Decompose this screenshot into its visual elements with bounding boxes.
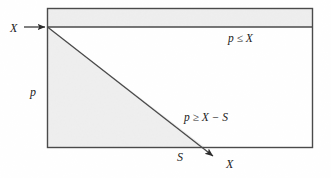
diagram-svg	[0, 0, 331, 178]
shaded-region-p-le-x	[48, 9, 313, 28]
figure-container: X p ≤ X p p ≥ X − S S X	[0, 0, 331, 178]
label-vertical-axis-p: p	[30, 86, 36, 98]
label-diagonal-x: X	[226, 158, 233, 170]
label-x-left: X	[10, 22, 17, 34]
label-bottom-s: S	[177, 151, 183, 163]
label-region-p-ge-x-minus-s: p ≥ X − S	[184, 112, 228, 124]
label-region-p-le-x: p ≤ X	[228, 33, 253, 45]
